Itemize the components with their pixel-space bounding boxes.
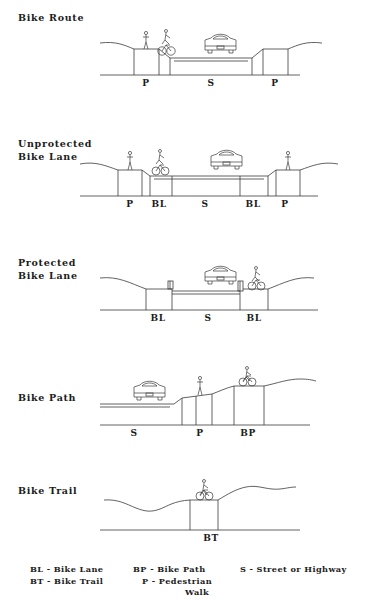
zone-label: S xyxy=(202,199,209,209)
diagram-bike-route-linework xyxy=(100,42,322,75)
legend-entry-bike-path: BP - Bike Path xyxy=(133,564,212,576)
diagram-bike-path-linework xyxy=(100,379,316,425)
diagram-title-bike-route: Bike Route xyxy=(18,12,84,25)
legend-entry-bike-trail: BT - Bike Trail xyxy=(30,576,103,588)
diagram-title-bike-path: Bike Path xyxy=(18,392,76,405)
zone-label: P xyxy=(126,199,133,209)
car-front-icon-path xyxy=(134,381,165,400)
legend-entry-street-or-highway: S - Street or Highway xyxy=(240,564,347,576)
cyclist-icon-protected xyxy=(248,267,265,291)
cyclist-icon-unprotected xyxy=(152,150,169,176)
cross-section-linework xyxy=(0,0,369,616)
legend-entry-pedestrian-walk-cont: Walk xyxy=(133,587,212,599)
zone-label: S xyxy=(205,313,212,323)
bike-facility-cross-section-figure: Bike Route Unprotected Bike Lane Protect… xyxy=(0,0,369,616)
zone-label: BT xyxy=(203,533,218,543)
zone-label: BP xyxy=(240,428,255,438)
zone-label: S xyxy=(208,78,215,88)
legend-entry-pedestrian-walk: P - Pedestrian xyxy=(133,576,212,588)
legend-column-1: BL - Bike Lane BT - Bike Trail xyxy=(30,564,103,587)
pedestrian-icon-route-left xyxy=(143,31,149,49)
diagram-title-unprotected-bike-lane: Unprotected Bike Lane xyxy=(18,138,92,163)
pedestrian-icon-unprotected-left xyxy=(127,151,133,170)
zone-label: P xyxy=(271,78,278,88)
pedestrian-icon-unprotected-right xyxy=(285,151,291,170)
legend-column-2: BP - Bike Path P - Pedestrian Walk xyxy=(133,564,212,599)
diagram-title-bike-trail: Bike Trail xyxy=(18,485,77,498)
diagram-bike-trail-linework xyxy=(100,486,300,530)
zone-label: P xyxy=(281,199,288,209)
zone-label: P xyxy=(142,78,149,88)
car-front-icon-route xyxy=(205,34,236,53)
zone-label: BL xyxy=(151,313,166,323)
zone-label: P xyxy=(196,428,203,438)
zone-label: BL xyxy=(247,313,262,323)
diagram-unprotected-bike-lane-linework xyxy=(80,163,338,196)
zone-label: S xyxy=(131,428,138,438)
car-front-icon-unprotected xyxy=(211,150,242,169)
zone-label: BL xyxy=(152,199,167,209)
diagram-protected-bike-lane-linework xyxy=(100,278,318,310)
legend-column-3: S - Street or Highway xyxy=(240,564,347,576)
cyclist-icon-route xyxy=(158,30,175,56)
cyclist-icon-trail xyxy=(196,480,213,501)
diagram-title-protected-bike-lane: Protected Bike Lane xyxy=(18,257,78,282)
pedestrian-icon-path xyxy=(197,376,203,395)
legend-entry-bike-lane: BL - Bike Lane xyxy=(30,564,103,576)
car-front-icon-protected xyxy=(205,266,236,284)
zone-label: BL xyxy=(246,199,261,209)
cyclist-icon-path xyxy=(239,367,256,387)
